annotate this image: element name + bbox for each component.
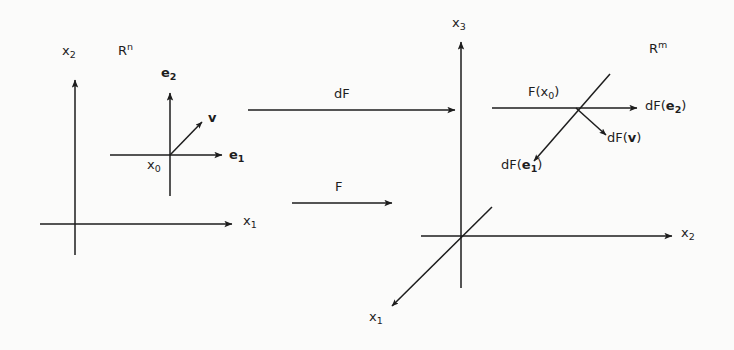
codomain-x3-axis-label: x3: [452, 16, 466, 31]
domain-x1-axis-label: x1: [243, 214, 257, 229]
domain-space-label: Rn: [118, 42, 133, 57]
diagram-vector-layer: [0, 0, 734, 350]
image-dF-v-label: dF(v): [607, 131, 641, 144]
dF-map-label: dF: [334, 87, 350, 100]
domain-global-axes: [40, 80, 232, 255]
image-dF-e1-label: dF(e1): [501, 158, 542, 173]
domain-basepoint-label: x0: [147, 158, 161, 173]
tangent-e2-label: e2: [161, 66, 176, 81]
image-dF-v-vector: [576, 108, 606, 135]
codomain-x2-axis-label: x2: [681, 226, 695, 241]
map-arrows: [248, 110, 455, 203]
domain-tangent-frame: [110, 93, 222, 196]
codomain-space-label: Rm: [649, 40, 667, 55]
image-dF-e2-label: dF(e2): [645, 99, 686, 114]
codomain-image-frame: [492, 74, 637, 161]
domain-x2-axis-label: x2: [62, 44, 76, 59]
tangent-v-vector: [170, 122, 202, 155]
F-map-label: F: [335, 180, 342, 193]
image-point-label: F(x0): [528, 85, 559, 100]
tangent-e1-label: e1: [229, 148, 244, 163]
tangent-v-label: v: [208, 111, 216, 124]
figure-canvas: x2 x1 Rn x0 e1 e2 v dF F x3 x2 x1 Rm F(x…: [0, 0, 734, 350]
codomain-x1-axis: [392, 207, 492, 306]
codomain-global-axes: [392, 42, 672, 306]
codomain-x1-axis-label: x1: [369, 310, 383, 325]
